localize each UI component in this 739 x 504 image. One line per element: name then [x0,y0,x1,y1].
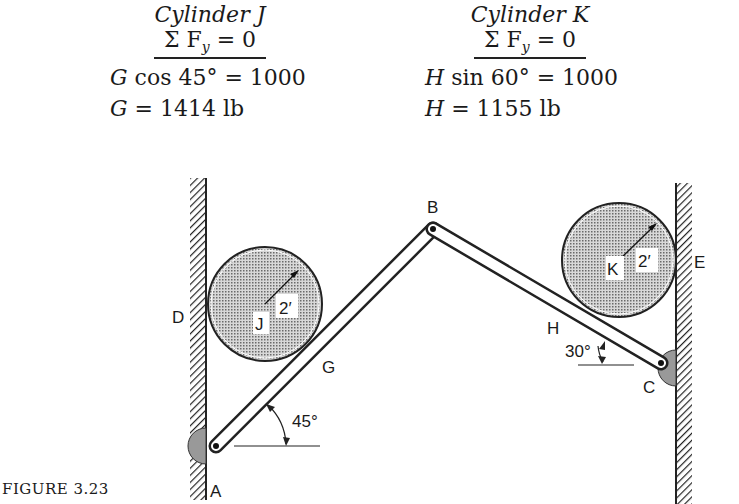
pin-a [213,443,219,449]
figure-caption: FIGURE 3.23 [2,480,109,498]
mechanism-diagram: A B C D E G H J 2′ K 2′ 45° 30° [0,0,739,504]
pin-c [658,360,664,366]
label-j: J [255,315,264,334]
right-wall [676,183,692,504]
label-angle-30: 30° [565,342,591,361]
label-e: E [694,253,705,272]
label-radius-j: 2′ [279,299,292,318]
label-a: A [210,482,222,501]
label-angle-45: 45° [292,412,318,431]
cylinder-j [208,247,322,361]
cylinder-k [562,203,676,317]
label-c: C [643,378,655,397]
label-h: H [547,319,559,338]
label-b: B [427,198,438,217]
label-d: D [172,308,184,327]
pin-b [430,226,436,232]
label-k: K [607,260,619,279]
label-g: G [322,358,335,377]
label-radius-k: 2′ [638,252,651,271]
